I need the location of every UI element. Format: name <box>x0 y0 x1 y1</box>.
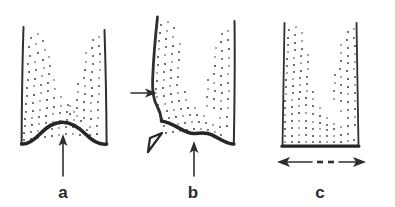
panel-b-up-arrow <box>190 141 199 176</box>
panel-a-granular-fill <box>23 33 101 141</box>
figure-canvas: a <box>0 0 395 207</box>
panel-a-left-wall <box>22 27 24 144</box>
panel-c-label: c <box>315 183 324 202</box>
panel-a-right-wall <box>105 30 107 144</box>
panel-c-double-arrow <box>277 157 366 167</box>
panel-c-left-wall <box>283 23 285 146</box>
panel-b-granular-fill <box>155 21 230 136</box>
panel-a-up-arrow <box>59 134 68 176</box>
panel-c-granular-fill <box>284 26 356 143</box>
panel-c: c <box>277 23 366 202</box>
panel-a-label: a <box>58 183 68 202</box>
panel-b-right-wall <box>234 21 235 144</box>
diagram-svg: a <box>0 0 395 207</box>
panel-b: b <box>131 17 235 202</box>
panel-b-wedge-icon <box>148 133 162 152</box>
panel-c-right-wall <box>357 23 359 146</box>
panel-b-label: b <box>188 183 198 202</box>
panel-a: a <box>22 27 107 202</box>
